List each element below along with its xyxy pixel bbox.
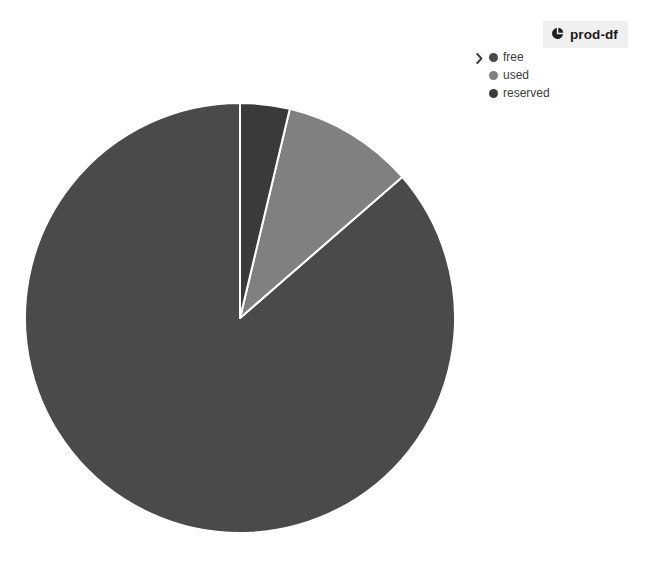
- legend-item-free[interactable]: free: [489, 50, 550, 65]
- legend-item-label: reserved: [503, 87, 550, 100]
- legend-item-reserved[interactable]: reserved: [489, 86, 550, 101]
- legend-swatch-icon: [489, 89, 498, 98]
- legend-item-label: used: [503, 69, 529, 82]
- pie-slice-used[interactable]: [240, 109, 402, 318]
- legend-item-label: free: [503, 51, 524, 64]
- pie-slice-group: [25, 103, 455, 533]
- pie-chart: [0, 0, 648, 564]
- pie-slice-reserved[interactable]: [240, 103, 290, 318]
- legend-item-list: free used reserved: [489, 50, 550, 101]
- pie-chart-svg: [0, 0, 648, 564]
- chart-title: prod-df: [570, 27, 618, 42]
- chart-title-chip: prod-df: [543, 21, 628, 48]
- chart-canvas: prod-df free used reserved: [0, 0, 648, 564]
- legend-swatch-icon: [489, 53, 498, 62]
- chevron-right-icon[interactable]: [474, 51, 485, 65]
- chart-legend: free used reserved: [474, 50, 550, 101]
- pie-slice-free[interactable]: [25, 103, 455, 533]
- legend-item-used[interactable]: used: [489, 68, 550, 83]
- legend-swatch-icon: [489, 71, 498, 80]
- pie-chart-icon: [551, 26, 564, 44]
